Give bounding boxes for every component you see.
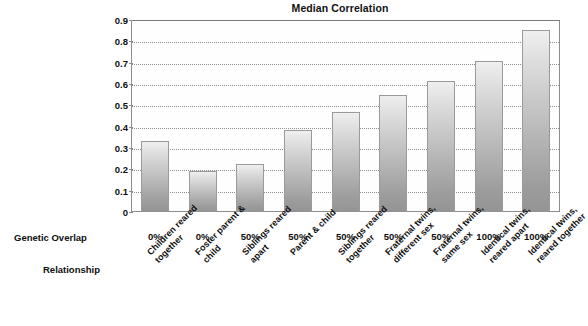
y-axis-tick-mark xyxy=(129,20,133,21)
y-axis-tick-label: 0.8 xyxy=(115,36,128,47)
y-axis-tick-mark xyxy=(129,105,133,106)
bar xyxy=(522,30,550,212)
bar xyxy=(141,141,169,212)
y-axis-tick-mark xyxy=(129,169,133,170)
y-axis-tick-label: 0.3 xyxy=(115,143,128,154)
y-axis-tick-label: 0.9 xyxy=(115,15,128,26)
y-axis-tick-mark xyxy=(129,148,133,149)
chart-title: Median Correlation xyxy=(120,2,560,14)
y-axis-tick-label: 0.1 xyxy=(115,185,128,196)
y-axis-tick-label: 0.2 xyxy=(115,164,128,175)
bar xyxy=(379,95,407,212)
bar xyxy=(332,112,360,212)
bar xyxy=(284,130,312,212)
genetic-overlap-row-label: Genetic Overlap xyxy=(14,232,87,243)
y-axis: 0.90.80.70.60.50.40.30.20.10 xyxy=(100,20,128,212)
y-axis-tick-label: 0.6 xyxy=(115,79,128,90)
bar xyxy=(475,61,503,212)
y-axis-tick-mark xyxy=(129,63,133,64)
y-axis-tick-label: 0.7 xyxy=(115,57,128,68)
bar xyxy=(427,81,455,212)
relationship-row-label: Relationship xyxy=(43,264,100,275)
y-axis-tick-label: 0.5 xyxy=(115,100,128,111)
y-axis-tick-label: 0 xyxy=(123,207,128,218)
y-axis-tick-label: 0.4 xyxy=(115,121,128,132)
y-axis-tick-mark xyxy=(129,84,133,85)
bars-layer xyxy=(131,20,560,212)
y-axis-tick-mark xyxy=(129,191,133,192)
y-axis-tick-mark xyxy=(129,127,133,128)
y-axis-tick-mark xyxy=(129,41,133,42)
y-axis-tick-mark xyxy=(129,212,133,213)
